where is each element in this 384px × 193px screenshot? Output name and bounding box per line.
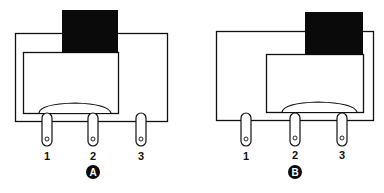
panel-b: 1 2 3 B [217,12,374,179]
actuator-block [62,10,118,53]
pin-2 [290,113,300,146]
badge-b-label: B [291,167,298,178]
pin-3 [337,113,347,146]
badge-a-label: A [89,167,96,178]
panel-a: 1 2 3 A [16,10,168,179]
pin-1 [42,113,52,146]
pin-label-1: 1 [44,150,50,162]
pin-2 [88,113,98,146]
pin-label-3: 3 [339,149,345,161]
pin-1 [241,113,251,146]
pin-label-2: 2 [90,150,96,162]
pin-label-2: 2 [292,149,298,161]
pin-label-1: 1 [243,150,249,162]
actuator-block [305,12,363,55]
switch-diagram: 1 2 3 A 1 2 3 B [0,0,384,193]
pin-3 [136,113,146,146]
pin-label-3: 3 [138,150,144,162]
